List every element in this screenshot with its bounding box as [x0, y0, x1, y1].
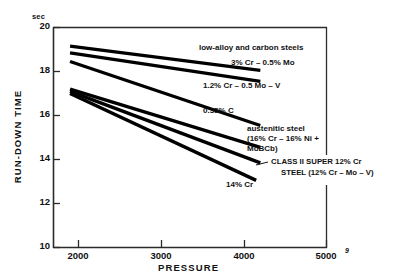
y-tick-label-14: 14	[28, 153, 50, 164]
x-tick-label-5000: 5000	[306, 251, 346, 262]
x-tick-label-4000: 4000	[224, 251, 264, 262]
y-tick-marks	[54, 28, 61, 248]
y-tick-label-12: 12	[28, 197, 50, 208]
series-label-austenitic: austenitic steel (16% Cr – 16% Ni + MoBC…	[247, 125, 319, 154]
series-label-class2-line2: STEEL (12% Cr – Mo – V)	[281, 169, 374, 178]
series-group-heading: low-alloy and carbon steels	[199, 44, 303, 53]
x-tick-marks	[79, 240, 327, 248]
series-label-class2-super12cr: CLASS II SUPER 12% Cr STEEL (12% Cr – Mo…	[271, 158, 364, 177]
chart-container: sec 20 18 16 14 12 10 2000 3000 4000 500…	[0, 0, 399, 279]
corner-annotation-mark: 9	[345, 247, 349, 255]
series-label-035c: 0.35% C	[203, 107, 234, 116]
y-tick-label-18: 18	[28, 65, 50, 76]
series-label-3cr-05mo: 3% Cr – 0.5% Mo	[231, 59, 295, 68]
chart-plot-svg	[0, 0, 399, 279]
y-tick-label-16: 16	[28, 109, 50, 120]
y-tick-label-20: 20	[28, 21, 50, 32]
x-tick-label-3000: 3000	[141, 251, 181, 262]
x-tick-label-2000: 2000	[58, 251, 98, 262]
x-axis-title: PRESSURE	[158, 263, 219, 274]
series-label-austenitic-line1: austenitic steel	[247, 125, 319, 134]
series-line-class2-super12cr	[70, 91, 260, 163]
y-axis-title: RUN-DOWN TIME	[12, 87, 23, 187]
series-label-austenitic-line3: MoBCb)	[247, 145, 319, 154]
y-tick-label-10: 10	[28, 241, 50, 252]
series-label-austenitic-line2: (16% Cr – 16% Ni +	[247, 135, 319, 144]
series-label-class2-line1: CLASS II SUPER 12% Cr	[271, 158, 364, 167]
series-label-12cr-05mo-v: 1.2% Cr – 0.5 Mo – V	[203, 82, 280, 91]
series-label-14cr: 14% Cr	[226, 181, 253, 190]
